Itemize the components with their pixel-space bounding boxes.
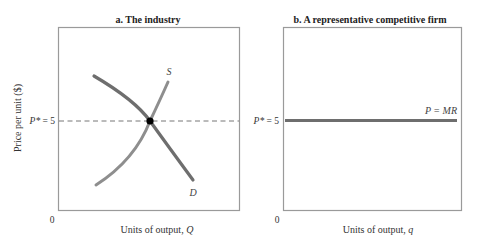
panel-a-title: a. The industry bbox=[115, 14, 180, 25]
panel-firm: b. A representative competitive firm P* … bbox=[253, 14, 462, 235]
p-equals-mr-label: P = MR bbox=[424, 105, 457, 116]
demand-label: D bbox=[188, 187, 197, 198]
competitive-market-figure: a. The industry Price per unit ($) P* = … bbox=[0, 0, 477, 247]
y-axis-label: Price per unit ($) bbox=[12, 84, 24, 152]
demand-curve bbox=[94, 76, 193, 180]
panel-b-title: b. A representative competitive firm bbox=[293, 14, 447, 25]
panel-a-x-axis-label: Units of output, Q bbox=[121, 224, 195, 235]
panel-b-x-axis-label: Units of output, q bbox=[343, 224, 414, 235]
panel-industry: a. The industry Price per unit ($) P* = … bbox=[12, 14, 240, 235]
supply-label: S bbox=[167, 66, 172, 77]
panel-b-origin: 0 bbox=[275, 215, 280, 225]
panel-b-price-label: P* = 5 bbox=[253, 116, 280, 126]
equilibrium-point bbox=[146, 117, 153, 124]
panel-a-price-label: P* = 5 bbox=[29, 116, 56, 126]
panel-a-origin: 0 bbox=[50, 215, 55, 225]
